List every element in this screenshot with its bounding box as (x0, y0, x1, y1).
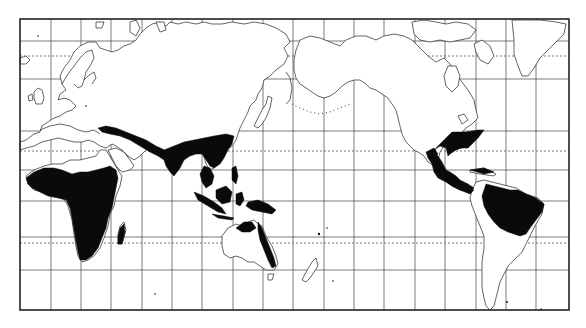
range-java (212, 214, 234, 220)
baffin-island (474, 40, 494, 64)
aleutian-islands (292, 104, 350, 114)
ireland (28, 94, 33, 101)
greenland (512, 20, 566, 76)
novaya-zemlya (130, 20, 140, 36)
iceland (20, 56, 30, 64)
british-isles (34, 88, 44, 104)
canadian-arctic-islands (412, 20, 476, 42)
range-africa (26, 166, 118, 260)
world-distribution-map (0, 0, 586, 328)
range-new-guinea (246, 200, 276, 214)
tasmania (268, 274, 274, 280)
kamchatka-outline (286, 72, 292, 104)
range-madagascar (118, 224, 125, 244)
svalbard (96, 22, 104, 28)
range-sulawesi (236, 192, 244, 206)
